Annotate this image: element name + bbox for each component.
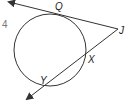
label-j: J xyxy=(118,25,125,36)
label-q: Q xyxy=(55,1,63,12)
geometry-figure: 4 Q J X Y xyxy=(0,0,128,107)
circle xyxy=(14,14,86,86)
problem-number: 4 xyxy=(2,19,8,30)
label-x: X xyxy=(87,54,95,65)
tangent-line-jq xyxy=(9,2,118,29)
secant-line-jy xyxy=(27,29,118,99)
